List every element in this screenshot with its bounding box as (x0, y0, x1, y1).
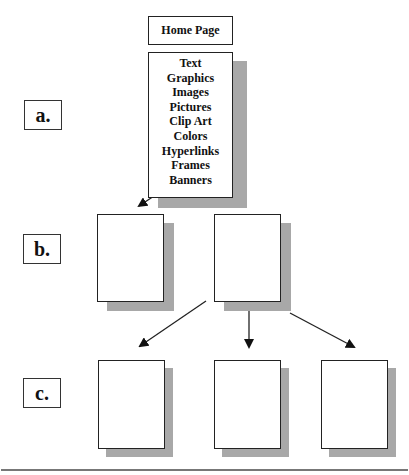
content-item: Frames (171, 158, 210, 173)
content-item: Pictures (170, 100, 212, 115)
level-label-text: a. (36, 104, 51, 127)
content-item: Banners (169, 173, 212, 188)
level-label-text: c. (35, 382, 49, 405)
content-item: Colors (174, 129, 208, 144)
content-item: Graphics (167, 71, 214, 86)
page-c-1 (98, 360, 165, 449)
level-label-text: b. (34, 238, 50, 261)
page-c-3 (321, 360, 388, 449)
home-page-box: Home Page (148, 16, 233, 45)
page-b-2 (214, 214, 281, 302)
level-label-b: b. (23, 234, 61, 264)
home-page-label: Home Page (161, 23, 219, 38)
bottom-rule (1, 469, 408, 471)
content-item: Text (179, 56, 201, 71)
page-c-2 (214, 360, 281, 449)
content-item: Images (172, 85, 209, 100)
level-label-c: c. (23, 378, 61, 408)
page-b-1 (97, 214, 164, 302)
level-label-a: a. (24, 100, 62, 130)
content-item: Hyperlinks (162, 144, 219, 159)
content-elements-box: Text Graphics Images Pictures Clip Art C… (148, 52, 233, 198)
content-item: Clip Art (169, 114, 211, 129)
